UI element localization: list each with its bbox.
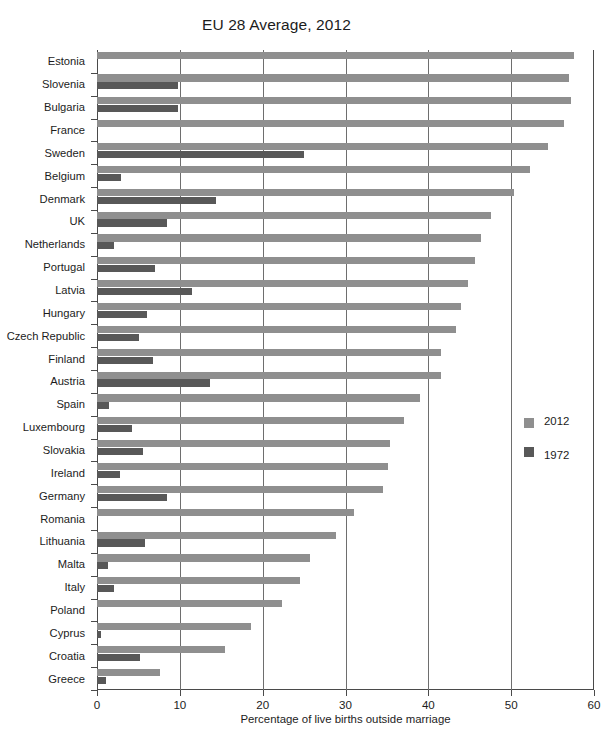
bar-1972: [97, 494, 167, 501]
legend-item-2012: 2012: [524, 415, 594, 441]
bar-group: [97, 461, 594, 484]
y-axis-label-sweden: Sweden: [45, 147, 85, 159]
bar-2012: [97, 52, 574, 59]
bar-1972: [97, 197, 216, 204]
y-axis-label-uk: UK: [69, 215, 85, 227]
bar-1972: [97, 174, 121, 181]
x-axis-ticklabel-50: 50: [505, 698, 518, 711]
bar-2012: [97, 257, 475, 264]
bar-2012: [97, 600, 282, 607]
bar-2012: [97, 120, 564, 127]
bar-group: [97, 210, 594, 233]
bar-2012: [97, 303, 461, 310]
bar-1972: [97, 311, 147, 318]
bar-2012: [97, 623, 251, 630]
legend-label-2012: 2012: [544, 415, 569, 427]
bar-1972: [97, 654, 140, 661]
y-axis-label-spain: Spain: [56, 398, 85, 410]
y-axis-label-belgium: Belgium: [45, 170, 85, 182]
bar-group: [97, 233, 594, 256]
bar-2012: [97, 166, 530, 173]
y-axis-label-malta: Malta: [58, 558, 85, 570]
bar-2012: [97, 280, 468, 287]
y-axis-label-bulgaria: Bulgaria: [44, 101, 85, 113]
x-axis-tick-50: [511, 690, 512, 696]
bar-group: [97, 484, 594, 507]
y-axis-label-hungary: Hungary: [43, 307, 85, 319]
legend-item-1972: 1972: [524, 441, 594, 467]
bar-2012: [97, 74, 569, 81]
x-axis-ticklabel-20: 20: [256, 698, 269, 711]
y-axis-label-portugal: Portugal: [43, 261, 85, 273]
y-axis-label-poland: Poland: [50, 604, 85, 616]
bar-1972: [97, 402, 109, 409]
bar-1972: [97, 677, 106, 684]
bar-group: [97, 393, 594, 416]
bar-2012: [97, 440, 390, 447]
bar-2012: [97, 143, 548, 150]
x-axis-tick-30: [346, 690, 347, 696]
bar-group: [97, 553, 594, 576]
bar-group: [97, 370, 594, 393]
bar-2012: [97, 212, 491, 219]
y-axis-label-croatia: Croatia: [49, 650, 85, 662]
bar-2012: [97, 463, 388, 470]
bar-1972: [97, 448, 143, 455]
bar-group: [97, 73, 594, 96]
x-axis-ticklabel-30: 30: [339, 698, 352, 711]
bar-1972: [97, 82, 178, 89]
bar-group: [97, 141, 594, 164]
x-axis-ticklabel-10: 10: [173, 698, 186, 711]
chart-title: EU 28 Average, 2012: [0, 16, 611, 34]
y-axis-label-denmark: Denmark: [40, 193, 85, 205]
bar-group: [97, 621, 594, 644]
bar-group: [97, 164, 594, 187]
y-axis-label-luxembourg: Luxembourg: [23, 421, 85, 433]
bar-2012: [97, 577, 300, 584]
chart-legend: 20121972: [524, 415, 594, 467]
bar-2012: [97, 234, 481, 241]
y-axis-label-romania: Romania: [40, 513, 85, 525]
bar-group: [97, 279, 594, 302]
bar-group: [97, 644, 594, 667]
bar-2012: [97, 97, 571, 104]
legend-swatch-2012: [524, 418, 534, 428]
bar-group: [97, 667, 594, 690]
y-axis-label-france: France: [50, 124, 85, 136]
bar-group: [97, 599, 594, 622]
bar-2012: [97, 532, 336, 539]
x-axis-ticklabel-60: 60: [588, 698, 601, 711]
bar-1972: [97, 631, 101, 638]
x-axis-tick-0: [97, 690, 98, 696]
x-axis-ticklabel-0: 0: [94, 698, 100, 711]
bar-1972: [97, 219, 167, 226]
bar-1972: [97, 471, 120, 478]
bar-2012: [97, 417, 404, 424]
y-axis-label-ireland: Ireland: [51, 467, 85, 479]
bar-group: [97, 119, 594, 142]
bar-2012: [97, 394, 420, 401]
x-axis-tick-60: [594, 690, 595, 696]
y-axis-label-latvia: Latvia: [55, 284, 85, 296]
bar-1972: [97, 334, 139, 341]
bar-group: [97, 301, 594, 324]
y-axis-category-labels: EstoniaSloveniaBulgariaFranceSwedenBelgi…: [0, 50, 93, 690]
bar-group: [97, 347, 594, 370]
bar-1972: [97, 357, 153, 364]
bar-2012: [97, 486, 383, 493]
plot-area: [97, 50, 594, 690]
bar-1972: [97, 425, 132, 432]
bar-1972: [97, 151, 304, 158]
bar-2012: [97, 349, 441, 356]
bar-2012: [97, 646, 225, 653]
bar-group: [97, 439, 594, 462]
y-axis-label-greece: Greece: [48, 673, 85, 685]
y-axis-label-netherlands: Netherlands: [25, 238, 85, 250]
bar-2012: [97, 326, 456, 333]
legend-swatch-1972: [524, 447, 534, 457]
y-axis-label-germany: Germany: [39, 490, 85, 502]
x-axis-tick-10: [180, 690, 181, 696]
y-axis-label-cyprus: Cyprus: [50, 627, 85, 639]
y-axis-label-finland: Finland: [48, 353, 85, 365]
y-axis-label-italy: Italy: [64, 581, 85, 593]
